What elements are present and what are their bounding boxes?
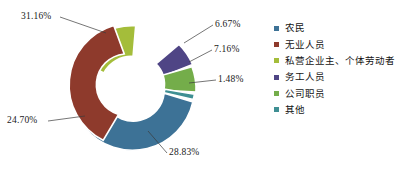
legend-swatch-icon [274,107,279,112]
data-label-other: 1.48% [218,74,244,84]
legend-label: 其他 [285,105,305,115]
legend-swatch-icon [274,75,279,80]
leader-line-31 [60,17,106,33]
legend-item-unemployed[interactable]: 无业人员 [274,37,395,51]
data-label-private-business-owner: 31.16% [21,11,52,21]
legend-swatch-icon [274,42,279,47]
legend-item-farmer[interactable]: 农民 [274,21,395,35]
data-label-unemployed: 24.70% [7,115,38,125]
legend-label: 公司职员 [285,89,325,99]
legend-item-other[interactable]: 其他 [274,103,395,117]
donut-chart-figure: 31.16% 24.70% 28.83% 6.67% 7.16% 1.48% 农… [0,0,406,173]
legend-swatch-icon [274,91,279,96]
leader-line-7 [189,50,212,62]
legend-item-private-business-owner[interactable]: 私营企业主、个体劳动者 [274,54,395,68]
legend-label: 务工人员 [285,72,325,82]
legend-label: 农民 [285,23,305,33]
legend-label: 无业人员 [285,40,325,50]
legend-swatch-icon [274,58,279,63]
legend-item-migrant-worker[interactable]: 务工人员 [274,70,395,84]
data-label-company-employee: 7.16% [214,44,240,54]
data-label-farmer: 28.83% [169,147,200,157]
leader-line-6 [184,25,213,43]
legend-label: 私营企业主、个体劳动者 [285,56,395,66]
data-label-migrant-worker: 6.67% [215,19,241,29]
chart-legend: 农民 无业人员 私营企业主、个体劳动者 务工人员 公司职员 其他 [274,21,395,117]
donut-slices [49,10,201,161]
legend-swatch-icon [274,26,279,31]
legend-item-company-employee[interactable]: 公司职员 [274,87,395,101]
